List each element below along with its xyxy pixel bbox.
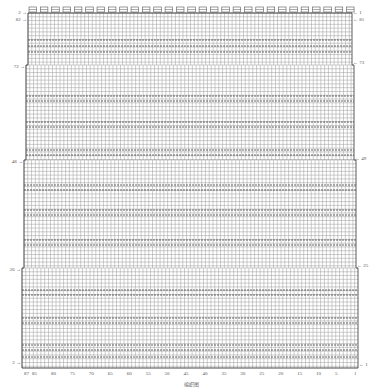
right-row-label: ← 1	[359, 362, 368, 367]
column-label: 15	[297, 371, 302, 376]
column-label: 55	[146, 371, 151, 376]
right-row-label: ← 25	[357, 263, 368, 268]
column-label: 30	[240, 371, 245, 376]
column-label: 45	[184, 371, 189, 376]
column-label: 5	[335, 371, 338, 376]
left-row-label: 72 →	[14, 64, 25, 69]
left-row-label: 2 →	[12, 360, 21, 365]
left-row-label: 82 →	[16, 17, 27, 22]
column-label: 50	[165, 371, 170, 376]
column-label: 80	[51, 371, 56, 376]
left-row-label: 2 →	[18, 10, 27, 15]
column-label: 20	[278, 371, 283, 376]
column-label: 65	[108, 371, 113, 376]
column-label: 75	[70, 371, 75, 376]
right-row-label: ← 1	[353, 10, 362, 15]
column-label: 85	[32, 371, 37, 376]
column-label: 87	[24, 371, 29, 376]
right-row-label: ← 49	[355, 156, 366, 161]
column-label: 60	[127, 371, 132, 376]
column-label: 1	[354, 371, 357, 376]
right-row-label: ← 81	[353, 17, 364, 22]
column-label: 10	[316, 371, 321, 376]
knitting-chart-grid	[0, 0, 383, 391]
column-label: 70	[89, 371, 94, 376]
left-row-label: 26 →	[10, 267, 21, 272]
left-row-label: 48 →	[12, 159, 23, 164]
column-label: 40	[202, 371, 207, 376]
column-label: 25	[259, 371, 264, 376]
right-row-label: ← 73	[353, 60, 364, 65]
column-label: 35	[221, 371, 226, 376]
chart-caption: 编织图	[0, 380, 383, 387]
